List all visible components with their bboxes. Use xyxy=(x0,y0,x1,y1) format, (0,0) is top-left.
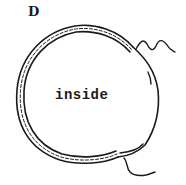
lower-tail xyxy=(120,144,155,176)
right-membrane xyxy=(118,47,158,157)
right-inner-fragment xyxy=(148,72,151,84)
inside-label: inside xyxy=(55,87,108,103)
upper-tail xyxy=(136,41,175,52)
